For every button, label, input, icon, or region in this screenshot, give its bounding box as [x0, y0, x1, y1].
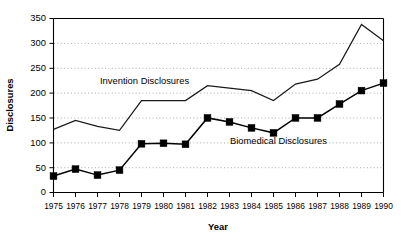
x-axis-ticks — [54, 193, 384, 198]
y-axis-title: Disclosures — [4, 78, 15, 131]
y-tick-label: 50 — [36, 162, 46, 173]
data-point-marker — [226, 119, 233, 126]
y-tick-label: 200 — [30, 87, 46, 98]
data-point-marker — [72, 166, 79, 173]
data-point-marker — [160, 140, 167, 147]
data-point-marker — [182, 141, 189, 148]
data-point-marker — [94, 172, 101, 179]
x-axis-title: Year — [208, 221, 228, 232]
x-tick-label: 1990 — [374, 201, 393, 211]
x-axis-labels: 1975 1976 1977 1978 1979 1980 1981 1982 … — [44, 201, 393, 211]
y-tick-label: 300 — [30, 37, 46, 48]
y-tick-label: 100 — [30, 137, 46, 148]
data-point-marker — [204, 115, 211, 122]
data-point-marker — [50, 173, 57, 180]
plot-frame — [54, 19, 384, 193]
x-tick-label: 1978 — [110, 201, 129, 211]
data-point-marker — [248, 124, 255, 131]
y-tick-label: 350 — [30, 12, 46, 23]
data-point-marker — [358, 87, 365, 94]
data-point-marker — [380, 80, 387, 87]
data-point-marker — [138, 140, 145, 147]
x-tick-label: 1985 — [264, 201, 283, 211]
x-tick-label: 1981 — [176, 201, 195, 211]
series-label-invention: Invention Disclosures — [100, 75, 189, 86]
x-tick-label: 1975 — [44, 201, 63, 211]
y-tick-label: 0 — [41, 186, 46, 197]
data-point-marker — [336, 101, 343, 108]
data-point-marker — [116, 167, 123, 174]
y-tick-label: 150 — [30, 112, 46, 123]
y-tick-label: 250 — [30, 62, 46, 73]
x-tick-label: 1983 — [220, 201, 239, 211]
line-chart: 350 300 250 200 150 100 50 0 — [0, 0, 417, 242]
x-tick-label: 1989 — [352, 201, 371, 211]
data-point-marker — [292, 115, 299, 122]
x-tick-label: 1982 — [198, 201, 217, 211]
chart-container: 350 300 250 200 150 100 50 0 — [0, 0, 417, 242]
data-point-marker — [314, 115, 321, 122]
x-tick-label: 1986 — [286, 201, 305, 211]
y-axis-ticks — [50, 19, 54, 193]
x-tick-label: 1977 — [88, 201, 107, 211]
x-tick-label: 1979 — [132, 201, 151, 211]
series-biomedical-disclosures — [50, 80, 387, 180]
y-gridlines — [54, 43, 383, 167]
x-tick-label: 1984 — [242, 201, 261, 211]
x-tick-label: 1980 — [154, 201, 173, 211]
x-tick-label: 1987 — [308, 201, 327, 211]
x-tick-label: 1976 — [66, 201, 85, 211]
series-label-biomedical: Biomedical Disclosures — [230, 135, 327, 146]
y-axis-labels: 350 300 250 200 150 100 50 0 — [30, 12, 46, 197]
x-tick-label: 1988 — [330, 201, 349, 211]
